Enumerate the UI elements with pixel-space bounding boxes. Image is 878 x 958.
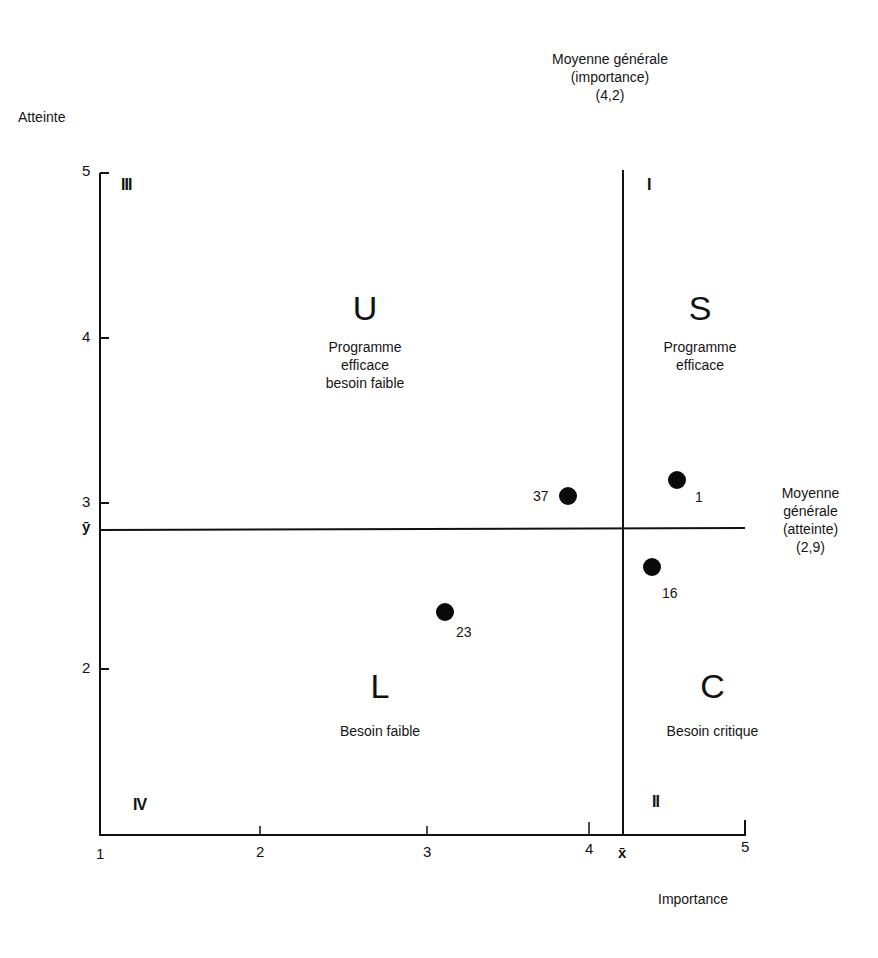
point-label-1: 1 — [695, 488, 703, 506]
x-mean-annotation-line1: Moyenne générale — [530, 50, 690, 68]
quadrant-letter-U: U — [290, 290, 440, 326]
x-mean-annotation-line3: (4,2) — [530, 86, 690, 104]
quadrant-roman-II: II — [652, 793, 659, 811]
quadrant-C-line1: Besoin critique — [640, 722, 785, 740]
x-tick-label-2: 2 — [256, 843, 264, 860]
quadrant-S-line1: Programme — [630, 338, 770, 356]
quadrant-chart-canvas — [0, 0, 878, 958]
quadrant-letter-C: C — [640, 668, 785, 704]
x-tick-label-4: 4 — [585, 840, 593, 857]
y-tick-label-3: 3 — [82, 493, 90, 510]
x-mean-annotation-line2: (importance) — [530, 68, 690, 86]
quadrant-U-line2: efficace — [290, 356, 440, 374]
quadrant-roman-IV: IV — [133, 796, 146, 814]
x-tick-label-5: 5 — [741, 838, 749, 855]
data-point-37 — [559, 487, 577, 505]
y-mean-symbol: ȳ — [82, 518, 90, 535]
y-tick-label-2: 2 — [82, 659, 90, 676]
x-tick-label-1: 1 — [96, 845, 104, 862]
x-mean-symbol: x̄ — [618, 844, 626, 861]
y-mean-annotation-line2: générale — [758, 502, 863, 520]
x-axis-title: Importance — [658, 890, 728, 908]
quadrant-U: U Programme efficace besoin faible — [290, 290, 440, 392]
quadrant-S-line2: efficace — [630, 356, 770, 374]
quadrant-roman-I: I — [647, 176, 650, 194]
data-point-16 — [643, 558, 661, 576]
y-tick-label-4: 4 — [82, 328, 90, 345]
y-mean-line — [100, 528, 745, 530]
quadrant-U-line1: Programme — [290, 338, 440, 356]
quadrant-roman-III: III — [121, 176, 131, 194]
y-mean-annotation: Moyenne générale (atteinte) (2,9) — [758, 484, 863, 556]
x-mean-annotation: Moyenne générale (importance) (4,2) — [530, 50, 690, 104]
quadrant-L-line1: Besoin faible — [300, 722, 460, 740]
y-tick-label-5: 5 — [82, 162, 90, 179]
y-mean-annotation-line1: Moyenne — [758, 484, 863, 502]
x-tick-label-3: 3 — [423, 843, 431, 860]
quadrant-S: S Programme efficace — [630, 290, 770, 374]
data-point-1 — [668, 471, 686, 489]
point-label-23: 23 — [456, 623, 472, 641]
quadrant-letter-S: S — [630, 290, 770, 326]
point-label-16: 16 — [662, 584, 678, 602]
y-axis-title: Atteinte — [18, 108, 65, 126]
point-label-37: 37 — [533, 487, 549, 505]
quadrant-U-line3: besoin faible — [290, 374, 440, 392]
y-mean-annotation-line3: (atteinte) — [758, 520, 863, 538]
data-point-23 — [436, 603, 454, 621]
quadrant-C: C Besoin critique — [640, 668, 785, 740]
y-mean-annotation-line4: (2,9) — [758, 538, 863, 556]
quadrant-L: L Besoin faible — [300, 668, 460, 740]
quadrant-letter-L: L — [300, 668, 460, 704]
